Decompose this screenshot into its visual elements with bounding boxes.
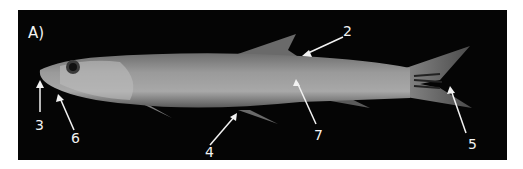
panel-label: A) [28,26,44,41]
annotation-2: 2 [343,24,352,38]
annotation-5: 5 [468,137,477,151]
pelvic-fin [238,110,278,124]
annotation-4: 4 [205,145,214,159]
annotation-6: 6 [71,131,80,145]
annotation-3: 3 [35,118,44,132]
caudal-fin [400,46,472,108]
annotation-7: 7 [314,128,323,142]
